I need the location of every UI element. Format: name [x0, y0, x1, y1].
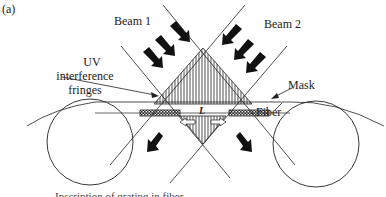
- beam1-label: Beam 1: [114, 15, 151, 28]
- beam2-arrows: [222, 24, 266, 73]
- uv-label-line2: interference: [45, 70, 125, 83]
- beam1-arrows: [143, 21, 190, 68]
- fiber-grating-diagram: [0, 0, 386, 197]
- beam2-label: Beam 2: [264, 18, 301, 31]
- panel-label: (a): [2, 3, 15, 16]
- mask-label: Mask: [288, 79, 315, 92]
- length-symbol: L: [199, 104, 205, 117]
- right-roller: [273, 101, 359, 187]
- transmitted-arrow-left: [147, 132, 163, 152]
- fiber-label: Fiber: [256, 106, 281, 119]
- left-roller: [47, 99, 133, 185]
- caption-truncated: Inscription of grating in fiber: [55, 190, 183, 197]
- uv-label-line1: UV: [70, 56, 114, 69]
- uv-label-line3: fringes: [55, 84, 115, 97]
- transmitted-arrow-right: [236, 132, 252, 152]
